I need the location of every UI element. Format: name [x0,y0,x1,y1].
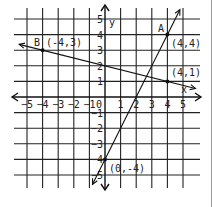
point-label: (4,4) [171,38,201,49]
line-b-label: B [34,37,40,48]
point-marker [103,157,107,161]
x-tick-label: 5 [180,99,186,110]
point-label: (0,-4) [109,163,145,174]
point-label: (4,1) [171,67,201,78]
x-tick-label: 4 [164,99,170,110]
y-tick-label: 3 [97,45,103,56]
y-tick-label: 1 [97,76,103,87]
x-tick-label: 3 [149,99,155,110]
y-axis-label: y [109,17,115,28]
y-tick-label: 4 [97,30,103,41]
point-marker [165,79,169,83]
coordinate-plane: xy−5−4−3−2−101234554321−1−2−3−4−5 A(4,4)… [0,0,213,207]
axes [12,5,201,190]
y-tick-label: 2 [97,61,103,72]
x-tick-label: 1 [118,99,124,110]
y-tick-label: 5 [97,14,103,25]
y-tick-label: −2 [91,123,103,134]
point-marker [41,48,45,52]
grid-lines [14,8,200,188]
y-tick-label: −1 [91,108,103,119]
point-label: (-4,3) [46,37,82,48]
x-tick-label: −4 [37,99,49,110]
y-tick-label: −4 [91,154,103,165]
image-border [211,0,212,207]
point-marker [165,33,169,37]
x-tick-label: −2 [68,99,80,110]
line-a-label: A [158,23,164,34]
x-tick-label: −3 [52,99,64,110]
x-tick-label: −5 [21,99,33,110]
y-tick-label: −3 [91,139,103,150]
